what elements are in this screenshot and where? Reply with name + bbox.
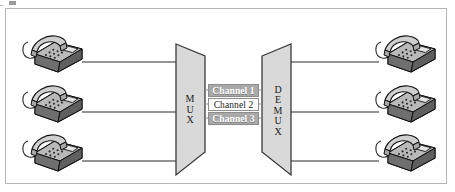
mux-letter-3: X bbox=[186, 115, 193, 126]
channel-bar-2: Channel 2 bbox=[208, 98, 259, 111]
telephone-right-1 bbox=[376, 36, 435, 72]
telephone-left-1 bbox=[23, 36, 82, 72]
link-lines-left bbox=[82, 62, 176, 161]
telephone-left-2 bbox=[23, 86, 82, 122]
diagram-area: M U X D E M U X Channel 1 Channel 2 Chan… bbox=[0, 0, 455, 192]
telephone-right-3 bbox=[376, 135, 435, 171]
demux-label: D E M U X bbox=[268, 83, 288, 139]
channel-bar-3: Channel 3 bbox=[208, 112, 259, 125]
demux-letter-5: X bbox=[274, 127, 281, 138]
telephone-right-2 bbox=[376, 86, 435, 122]
mux-label: M U X bbox=[180, 92, 200, 128]
telephone-left-3 bbox=[23, 135, 82, 171]
figure-canvas: M U X D E M U X Channel 1 Channel 2 Chan… bbox=[0, 0, 455, 192]
link-lines-right bbox=[291, 62, 379, 161]
channel-bar-1: Channel 1 bbox=[208, 84, 259, 97]
